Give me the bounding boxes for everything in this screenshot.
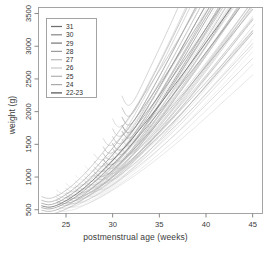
legend-label-29: 29 [66, 40, 74, 47]
legend-label-25: 25 [66, 73, 74, 80]
y-tick-label: 2500 [24, 70, 33, 87]
growth-chart-figure: 2530354045500100015002000250030003500 31… [0, 0, 271, 256]
legend-label-22-23: 22-23 [66, 89, 83, 96]
legend-label-24: 24 [66, 81, 74, 88]
y-tick-label: 3500 [24, 5, 33, 22]
x-tick-label: 25 [62, 220, 70, 229]
y-tick-label: 1000 [24, 169, 33, 186]
y-tick-label: 1500 [24, 136, 33, 153]
legend-label-31: 31 [66, 23, 74, 30]
curve-26 [75, 33, 252, 198]
x-tick-label: 40 [202, 220, 210, 229]
y-axis-title: weight (g) [7, 75, 17, 155]
chart-legend: 313029282726252422-23 [47, 19, 97, 98]
y-tick-label: 500 [24, 203, 33, 216]
legend-label-26: 26 [66, 64, 74, 71]
x-axis-title: postmenstrual age (weeks) [0, 232, 271, 242]
x-tick-label: 45 [248, 220, 256, 229]
legend-label-28: 28 [66, 48, 74, 55]
y-tick-label: 2000 [24, 103, 33, 120]
chart-canvas: 2530354045500100015002000250030003500 31… [0, 0, 271, 256]
x-tick-label: 30 [108, 220, 116, 229]
y-tick-label: 3000 [24, 38, 33, 55]
legend-label-27: 27 [66, 56, 74, 63]
x-tick-label: 35 [155, 220, 163, 229]
legend-label-30: 30 [66, 31, 74, 38]
